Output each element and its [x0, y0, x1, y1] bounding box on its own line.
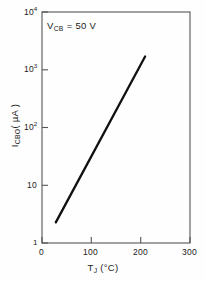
- y-axis-title-unit: ( µA ): [9, 104, 20, 129]
- y-tick-label-1: 1: [33, 238, 38, 247]
- x-axis-title: TJ (°C): [0, 262, 206, 273]
- y-tick-label-10e2: 102: [24, 122, 38, 132]
- x-tick-label-300: 300: [182, 247, 197, 257]
- annotation-subscript: CB: [54, 25, 64, 32]
- x-tick-label-100: 100: [83, 247, 98, 257]
- x-axis-title-unit: (°C): [97, 262, 118, 273]
- y-axis-title-subscript: CBO: [14, 129, 21, 145]
- x-axis-title-subscript: J: [94, 267, 98, 274]
- y-tick-label-10e3: 103: [24, 64, 38, 74]
- y-axis-ticks: [42, 12, 48, 243]
- annotation-symbol: V: [47, 20, 54, 31]
- chart-annotation-vcb: VCB = 50 V: [47, 20, 96, 31]
- y-tick-label-10: 10: [27, 180, 37, 190]
- plot-canvas: [0, 0, 206, 282]
- annotation-value: = 50 V: [64, 20, 96, 31]
- chart-figure: 104 103 102 10 1 0 100 200 300 VCB = 50 …: [0, 0, 206, 282]
- data-series-icbo: [56, 57, 145, 223]
- x-axis-ticks: [42, 237, 190, 243]
- x-tick-label-0: 0: [39, 247, 44, 257]
- x-axis-title-symbol: T: [88, 262, 94, 273]
- y-axis-title: ICBO( µA ): [9, 76, 20, 176]
- y-axis-title-symbol: I: [9, 144, 20, 147]
- x-tick-label-200: 200: [133, 247, 148, 257]
- y-tick-label-10e4: 104: [24, 7, 38, 17]
- data-line: [56, 57, 145, 223]
